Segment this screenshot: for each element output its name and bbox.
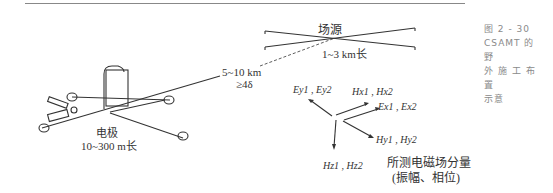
component-ey: Ey1 , Ey2	[293, 84, 332, 95]
component-hy: Hy1 , Hy2	[376, 134, 417, 145]
caption-line: 图 2 - 30	[484, 22, 546, 36]
source-title: 场源	[318, 20, 342, 38]
electrode	[178, 132, 188, 140]
source-length: 1~3 km长	[322, 45, 367, 61]
distance-label: 5~10 km	[222, 66, 261, 78]
receiver-box	[106, 70, 128, 106]
electrode	[39, 124, 49, 132]
component-hx: Hx1 , Hx2	[352, 86, 393, 97]
caption-line: CSAMT 的 野	[484, 36, 546, 64]
component-arrows	[310, 100, 378, 147]
electrode-length: 10~300 m长	[81, 137, 137, 153]
distance-condition: ≥4δ	[236, 78, 253, 90]
component-ex: Ex1 , Ex2	[378, 101, 417, 112]
component-hz: Hz1 , Hz2	[323, 160, 363, 171]
caption-line: 示意	[484, 92, 546, 106]
cable-spool	[48, 110, 69, 122]
figure-caption: 图 2 - 30 CSAMT 的 野 外 施 工 布 置 示意	[484, 22, 546, 106]
measured-sub: (振幅、相位)	[392, 168, 460, 186]
receiver-line-cross	[110, 113, 183, 138]
caption-line: 外 施 工 布 置	[484, 64, 546, 92]
cable-spool	[48, 97, 69, 109]
